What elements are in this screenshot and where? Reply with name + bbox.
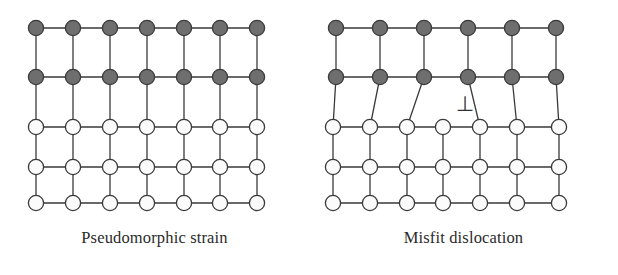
atom-substrate (212, 119, 227, 134)
atom-overlayer (328, 69, 343, 84)
figure-root: Pseudomorphic strain ⊥ Misfit dislocatio… (0, 0, 618, 275)
atom-substrate (212, 159, 227, 174)
atom-overlayer (249, 69, 264, 84)
atom-substrate (176, 119, 191, 134)
atom-substrate (212, 195, 227, 210)
atom-overlayer (176, 69, 191, 84)
atom-substrate (551, 159, 566, 174)
atom-substrate (102, 159, 117, 174)
atom-substrate (65, 119, 80, 134)
atom-overlayer (28, 69, 43, 84)
atom-overlayer (328, 20, 343, 35)
atom-substrate (362, 119, 377, 134)
bond-layer (333, 28, 559, 203)
panel-pseudomorphic-strain: Pseudomorphic strain (0, 0, 309, 275)
atom-substrate (139, 195, 154, 210)
atom-substrate (472, 119, 487, 134)
atom-substrate (472, 195, 487, 210)
atom-substrate (249, 195, 264, 210)
atom-overlayer (212, 69, 227, 84)
atom-substrate (139, 119, 154, 134)
atom-substrate (399, 195, 414, 210)
atom-substrate (509, 195, 524, 210)
atom-overlayer (65, 69, 80, 84)
atom-overlayer (28, 20, 43, 35)
atom-substrate (472, 159, 487, 174)
atom-overlayer (139, 69, 154, 84)
atom-substrate (28, 119, 43, 134)
atom-substrate (325, 195, 340, 210)
atom-substrate (28, 195, 43, 210)
atom-substrate (551, 195, 566, 210)
panel-misfit-dislocation: ⊥ Misfit dislocation (309, 0, 618, 275)
lattice-diagram-misfit: ⊥ (309, 0, 618, 225)
atom-substrate (435, 119, 450, 134)
bond-layer (36, 28, 257, 203)
dislocation-symbol-icon: ⊥ (456, 92, 474, 116)
atom-layer (325, 20, 566, 210)
atom-overlayer (372, 20, 387, 35)
atom-substrate (435, 195, 450, 210)
atom-substrate (509, 159, 524, 174)
atom-substrate (102, 119, 117, 134)
caption-pseudomorphic-strain: Pseudomorphic strain (0, 228, 309, 248)
atom-overlayer (372, 69, 387, 84)
atom-overlayer (416, 20, 431, 35)
atom-overlayer (548, 69, 563, 84)
atom-substrate (176, 195, 191, 210)
atom-substrate (65, 195, 80, 210)
atom-overlayer (176, 20, 191, 35)
atom-substrate (249, 159, 264, 174)
atom-overlayer (504, 69, 519, 84)
atom-overlayer (102, 20, 117, 35)
atom-substrate (102, 195, 117, 210)
atom-substrate (362, 195, 377, 210)
atom-substrate (249, 119, 264, 134)
caption-misfit-dislocation: Misfit dislocation (309, 228, 618, 248)
atom-overlayer (416, 69, 431, 84)
atom-overlayer (139, 20, 154, 35)
atom-substrate (551, 119, 566, 134)
atom-substrate (399, 159, 414, 174)
atom-substrate (325, 159, 340, 174)
atom-overlayer (102, 69, 117, 84)
atom-overlayer (65, 20, 80, 35)
atom-substrate (65, 159, 80, 174)
atom-substrate (399, 119, 414, 134)
atom-substrate (509, 119, 524, 134)
atom-overlayer (212, 20, 227, 35)
atom-substrate (325, 119, 340, 134)
atom-substrate (28, 159, 43, 174)
atom-substrate (176, 159, 191, 174)
lattice-diagram-pseudomorphic (0, 0, 309, 225)
atom-substrate (139, 159, 154, 174)
atom-overlayer (504, 20, 519, 35)
atom-overlayer (460, 69, 475, 84)
atom-substrate (362, 159, 377, 174)
atom-overlayer (460, 20, 475, 35)
atom-overlayer (548, 20, 563, 35)
atom-overlayer (249, 20, 264, 35)
atom-substrate (435, 159, 450, 174)
